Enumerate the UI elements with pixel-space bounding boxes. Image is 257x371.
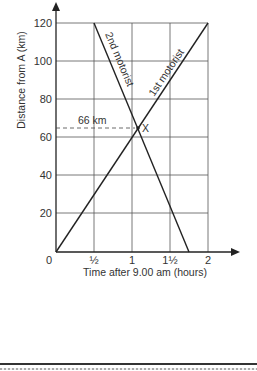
x-tick-1-half: 1½ xyxy=(162,254,177,266)
page-rule-dotted xyxy=(0,368,257,370)
annotation-66km: 66 km xyxy=(78,114,107,126)
x-tick-half: ½ xyxy=(89,254,98,266)
x-tick-0: 0 xyxy=(46,254,52,266)
y-tick-120: 120 xyxy=(34,17,52,29)
y-tick-80: 80 xyxy=(40,93,52,105)
y-tick-20: 20 xyxy=(40,207,52,219)
y-tick-60: 60 xyxy=(40,131,52,143)
label-1st-motorist: 1st motorist xyxy=(146,46,186,98)
x-tick-2: 2 xyxy=(205,254,211,266)
y-tick-100: 100 xyxy=(34,55,52,67)
x-tick-1: 1 xyxy=(129,254,135,266)
y-axis-arrow-icon xyxy=(52,2,60,11)
y-tick-40: 40 xyxy=(40,169,52,181)
distance-time-chart: 120 100 80 60 40 20 0 ½ 1 1½ 2 Time afte… xyxy=(0,0,257,371)
intersection-point xyxy=(136,126,140,130)
annotation-x: X xyxy=(142,122,149,134)
x-axis-title: Time after 9.00 am (hours) xyxy=(83,266,207,278)
y-axis-title: Distance from A (km) xyxy=(15,31,27,128)
page-rule xyxy=(0,363,257,365)
x-axis-arrow-icon xyxy=(231,248,240,256)
